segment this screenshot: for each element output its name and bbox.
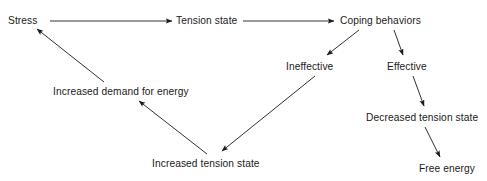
edge-effective-to-decreased (413, 76, 424, 106)
edge-coping-to-effective (394, 30, 403, 55)
node-tension-state: Tension state (176, 14, 237, 27)
node-ineffective: Ineffective (286, 60, 333, 73)
edge-coping-to-ineffective (327, 30, 359, 55)
node-stress: Stress (8, 14, 37, 27)
flow-diagram: Stress Tension state Coping behaviors In… (0, 0, 487, 181)
node-increased-demand-for-energy: Increased demand for energy (53, 85, 189, 98)
node-free-energy: Free energy (419, 162, 475, 175)
node-decreased-tension-state: Decreased tension state (366, 111, 478, 124)
edge-demand-to-stress (37, 29, 104, 82)
edge-increased-to-demand (139, 101, 207, 154)
node-increased-tension-state: Increased tension state (152, 157, 260, 170)
edge-ineffective-to-increased (222, 76, 315, 151)
edge-decreased-to-free-energy (425, 127, 440, 157)
node-effective: Effective (387, 60, 427, 73)
node-coping-behaviors: Coping behaviors (340, 14, 421, 27)
